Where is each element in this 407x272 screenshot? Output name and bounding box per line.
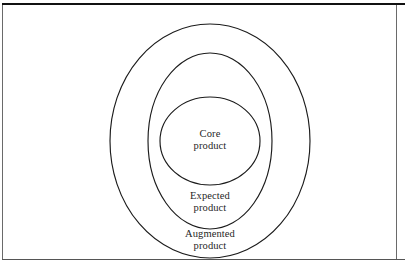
expected-product-label-line2: product	[160, 202, 260, 214]
core-product-label-line2: product	[160, 140, 260, 152]
augmented-product-label-line2: product	[155, 240, 265, 252]
augmented-product-label-line1: Augmented	[155, 228, 265, 240]
core-product-label-line1: Core	[160, 128, 260, 140]
augmented-product-label: Augmented product	[155, 228, 265, 252]
core-product-label: Core product	[160, 128, 260, 152]
figure-frame: Core product Expected product Augmented …	[0, 0, 407, 272]
expected-product-label: Expected product	[160, 190, 260, 214]
expected-product-label-line1: Expected	[160, 190, 260, 202]
